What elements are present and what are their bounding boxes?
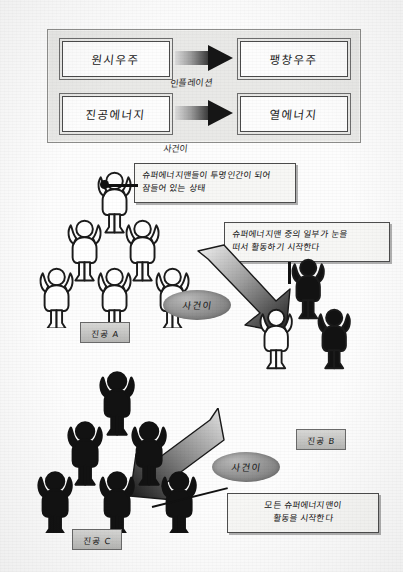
- box-primordial-universe-label: 원시우주: [91, 51, 141, 67]
- arrow-shaft: [175, 51, 211, 65]
- pyramid-b-mixed-figures: [248, 255, 378, 385]
- box-thermal-energy: 열에너지: [240, 96, 348, 132]
- caption-inflation: 인플레이션: [169, 75, 213, 89]
- stage-label-vacuum-c: 진공 C: [72, 529, 122, 550]
- transition-tag-a-to-b-text: 사건이: [182, 298, 213, 312]
- stage-label-vacuum-a: 진공 A: [80, 322, 130, 343]
- transition-tag-b-to-c: 사건이: [212, 452, 280, 482]
- box-vacuum-energy: 진공에너지: [62, 96, 170, 132]
- stage-label-vacuum-c-text: 진공 C: [82, 534, 112, 546]
- cosmology-transition-panel: 원시우주 팽창우주 진공에너지 열에너지 인플레이션: [47, 29, 361, 143]
- pyramid-c-filled-figures: [36, 368, 206, 533]
- note-vacuum-c-line-2: 활동을 시작한다: [234, 512, 372, 525]
- box-expanding-universe: 팽창우주: [240, 41, 348, 77]
- stage-label-vacuum-b-text: 진공 B: [306, 434, 336, 446]
- leader-line-note-b: [288, 262, 291, 284]
- box-vacuum-energy-label: 진공에너지: [85, 106, 147, 122]
- arrow-right-inflation-icon: [175, 45, 233, 71]
- leader-line-note-a: [106, 184, 138, 187]
- stage-label-vacuum-a-text: 진공 A: [90, 327, 120, 339]
- diagram-page: 원시우주 팽창우주 진공에너지 열에너지 인플레이션 사건이: [0, 0, 403, 572]
- caption-event-bottom: 사건이: [162, 142, 187, 156]
- note-vacuum-c-line-1: 모든 슈퍼에너지맨이: [234, 499, 372, 512]
- leader-dot-note-a: [100, 180, 109, 189]
- transition-tag-a-to-b: 사건이: [163, 290, 231, 320]
- arrow-shaft: [175, 106, 211, 120]
- box-primordial-universe: 원시우주: [62, 41, 170, 77]
- arrow-head: [208, 100, 233, 126]
- box-thermal-energy-label: 열에너지: [269, 106, 319, 122]
- stage-label-vacuum-b: 진공 B: [296, 429, 346, 450]
- note-vacuum-c: 모든 슈퍼에너지맨이 활동을 시작한다: [227, 493, 379, 533]
- transition-tag-b-to-c-text: 사건이: [231, 460, 262, 474]
- box-expanding-universe-label: 팽창우주: [269, 51, 319, 67]
- arrow-right-event-icon: [175, 100, 233, 126]
- note-vacuum-b-line-1: 슈퍼에너지맨 중의 일부가 눈을: [231, 228, 383, 241]
- arrow-head: [208, 45, 233, 71]
